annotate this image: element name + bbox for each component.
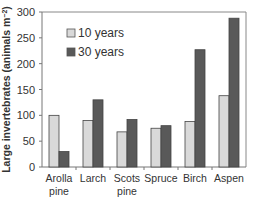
x-tick-label: Arolla — [46, 172, 73, 184]
legend-swatch — [67, 29, 75, 37]
x-tick-label: Aspen — [214, 172, 244, 184]
bar — [229, 18, 239, 167]
y-tick-label: 250 — [17, 32, 35, 44]
y-tick-label: 150 — [17, 84, 35, 96]
x-axis-labels: ArollapineLarchScotspineSpruceBirchAspen — [46, 172, 244, 197]
bar — [49, 115, 59, 167]
bar — [117, 132, 127, 167]
x-tick-label: Birch — [183, 172, 207, 184]
y-tick-label: 0 — [29, 161, 35, 173]
bar — [195, 50, 205, 167]
bar — [151, 128, 161, 167]
bar-chart: Large invertebrates (animals m−2) 050100… — [0, 0, 253, 203]
y-tick-label: 100 — [17, 109, 35, 121]
bar — [93, 100, 103, 167]
y-axis-title: Large invertebrates (animals m−2) — [0, 6, 12, 173]
y-axis-label: Large invertebrates (animals m−2) — [0, 6, 12, 173]
legend-label: 10 years — [78, 26, 124, 40]
x-tick-label: pine — [49, 185, 69, 197]
x-tick-label: Scots — [114, 172, 140, 184]
x-tick-label: Spruce — [144, 172, 177, 184]
y-tick-label: 50 — [23, 135, 35, 147]
bar — [219, 96, 229, 167]
bar — [185, 122, 195, 167]
legend-swatch — [67, 48, 75, 56]
x-tick-label: Larch — [80, 172, 106, 184]
bars — [49, 18, 239, 167]
bar — [59, 152, 69, 168]
bar — [127, 119, 137, 167]
legend-label: 30 years — [78, 45, 124, 59]
y-tick-label: 200 — [17, 58, 35, 70]
x-tick-label: pine — [117, 185, 137, 197]
y-tick-label: 300 — [17, 6, 35, 18]
legend: 10 years30 years — [67, 26, 124, 59]
bar — [161, 126, 171, 167]
bar — [83, 121, 93, 168]
